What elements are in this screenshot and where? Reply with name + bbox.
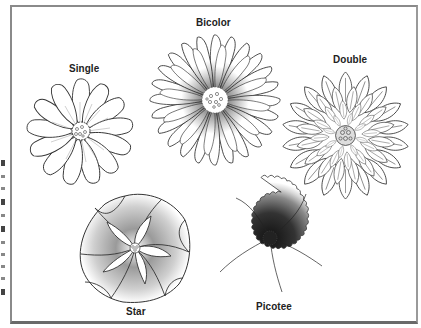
single-flower-illustration: [20, 75, 140, 190]
label-single: Single: [69, 62, 99, 74]
star-flower-illustration: [78, 192, 193, 304]
label-picotee: Picotee: [256, 300, 292, 312]
label-double: Double: [333, 53, 367, 65]
label-bicolor: Bicolor: [196, 16, 231, 28]
picotee-flower-illustration: [210, 178, 330, 298]
label-star: Star: [126, 305, 146, 317]
clipped-caption-strip: [0, 160, 6, 328]
bicolor-flower-illustration: [145, 30, 285, 170]
